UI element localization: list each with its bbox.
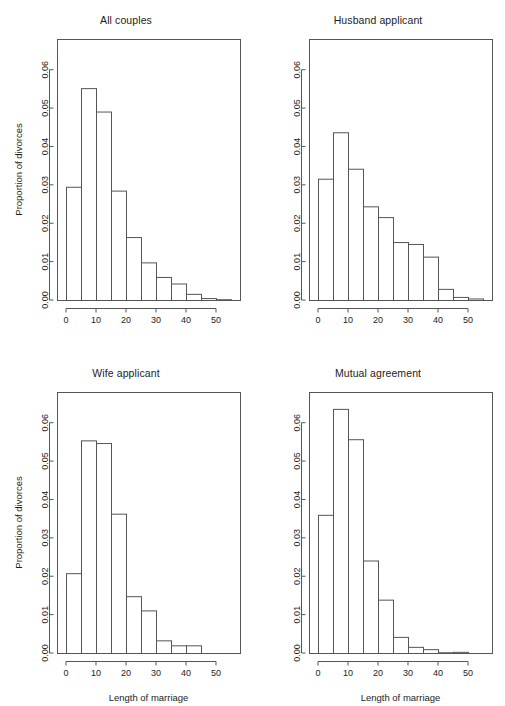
x-tick-label: 30 <box>403 315 413 325</box>
histogram-bar <box>334 133 349 301</box>
plot-area-mutual-agreement: 0.000.010.020.030.040.050.0601020304050L… <box>252 353 504 706</box>
x-tick-label: 50 <box>211 668 221 678</box>
x-axis-title: Length of marriage <box>109 692 189 703</box>
histogram-bar <box>424 257 439 300</box>
histogram-bar <box>67 187 82 300</box>
plot-frame <box>58 40 241 301</box>
x-axis: 01020304050 <box>315 309 473 326</box>
histogram-bar <box>187 294 202 300</box>
panel-husband-applicant: Husband applicant0.000.010.020.030.040.0… <box>252 0 504 353</box>
histogram-bar <box>439 289 454 300</box>
x-axis-title: Length of marriage <box>361 692 441 703</box>
histogram-bar <box>127 238 142 301</box>
histogram-bar <box>319 179 334 300</box>
y-tick-label: 0.05 <box>40 452 50 470</box>
y-axis: 0.000.010.020.030.040.050.06 <box>292 61 306 309</box>
x-tick-label: 20 <box>121 668 131 678</box>
y-axis-title: Proportion of divorces <box>13 123 24 216</box>
y-tick-label: 0.06 <box>292 61 302 79</box>
histogram-bars <box>319 409 469 653</box>
histogram-bar <box>439 653 454 654</box>
histogram-bar <box>379 600 394 653</box>
x-tick-label: 10 <box>343 315 353 325</box>
histogram-bar <box>394 637 409 653</box>
y-tick-label: 0.04 <box>40 491 50 509</box>
x-tick-label: 30 <box>151 668 161 678</box>
x-tick-label: 20 <box>121 315 131 325</box>
plot-frame <box>58 393 241 654</box>
histogram-bar <box>82 89 97 301</box>
x-tick-label: 10 <box>91 315 101 325</box>
x-tick-label: 50 <box>211 315 221 325</box>
histogram-bar <box>379 218 394 301</box>
x-tick-label: 30 <box>403 668 413 678</box>
x-tick-label: 10 <box>343 668 353 678</box>
y-tick-label: 0.01 <box>292 253 302 271</box>
x-axis: 01020304050 <box>63 309 221 326</box>
y-tick-label: 0.05 <box>292 99 302 117</box>
x-tick-label: 20 <box>373 315 383 325</box>
plot-area-husband-applicant: 0.000.010.020.030.040.050.0601020304050 <box>252 0 504 353</box>
y-axis: 0.000.010.020.030.040.050.06 <box>292 414 306 662</box>
x-tick-label: 0 <box>63 668 68 678</box>
y-tick-label: 0.05 <box>40 99 50 117</box>
plot-frame <box>310 40 493 301</box>
y-tick-label: 0.06 <box>292 414 302 432</box>
y-tick-label: 0.04 <box>292 138 302 156</box>
y-tick-label: 0.01 <box>40 253 50 271</box>
y-tick-label: 0.01 <box>292 606 302 624</box>
x-tick-label: 0 <box>63 315 68 325</box>
x-tick-label: 40 <box>433 315 443 325</box>
x-axis: 01020304050 <box>315 662 473 679</box>
plot-area-all-couples: 0.000.010.020.030.040.050.0601020304050P… <box>0 0 252 353</box>
x-tick-label: 40 <box>433 668 443 678</box>
x-tick-label: 10 <box>91 668 101 678</box>
histogram-bar <box>172 646 187 654</box>
x-tick-label: 40 <box>181 315 191 325</box>
x-tick-label: 0 <box>315 315 320 325</box>
histogram-bar <box>202 299 217 301</box>
y-tick-label: 0.06 <box>40 61 50 79</box>
histogram-bar <box>334 409 349 653</box>
histogram-bar <box>112 191 127 300</box>
y-tick-label: 0.02 <box>292 214 302 232</box>
plot-frame <box>310 393 493 654</box>
histogram-bar <box>394 243 409 301</box>
histogram-bar <box>349 440 364 654</box>
histogram-bar <box>157 641 172 654</box>
y-tick-label: 0.02 <box>40 214 50 232</box>
y-tick-label: 0.06 <box>40 414 50 432</box>
x-tick-label: 30 <box>151 315 161 325</box>
histogram-bar <box>454 297 469 300</box>
histogram-bar <box>142 611 157 654</box>
y-tick-label: 0.00 <box>40 644 50 662</box>
x-tick-label: 50 <box>463 668 473 678</box>
histogram-bars <box>67 441 202 654</box>
histogram-bar <box>469 299 484 301</box>
y-tick-label: 0.05 <box>292 452 302 470</box>
y-tick-label: 0.03 <box>40 529 50 547</box>
histogram-bar <box>319 515 334 653</box>
plot-area-wife-applicant: 0.000.010.020.030.040.050.0601020304050P… <box>0 353 252 706</box>
histogram-bar <box>97 112 112 300</box>
histogram-bar <box>172 284 187 301</box>
figure-canvas: All couples0.000.010.020.030.040.050.060… <box>0 0 505 706</box>
y-axis-title: Proportion of divorces <box>13 476 24 569</box>
panel-all-couples: All couples0.000.010.020.030.040.050.060… <box>0 0 252 353</box>
x-tick-label: 0 <box>315 668 320 678</box>
x-axis: 01020304050 <box>63 662 221 679</box>
y-tick-label: 0.00 <box>292 644 302 662</box>
histogram-bar <box>187 646 202 654</box>
x-tick-label: 40 <box>181 668 191 678</box>
histogram-bar <box>349 169 364 300</box>
histogram-bar <box>424 650 439 654</box>
y-tick-label: 0.03 <box>292 529 302 547</box>
histogram-bars <box>67 89 232 301</box>
panel-mutual-agreement: Mutual agreement0.000.010.020.030.040.05… <box>252 353 504 706</box>
y-axis: 0.000.010.020.030.040.050.06 <box>40 414 54 662</box>
y-tick-label: 0.04 <box>292 491 302 509</box>
x-tick-label: 50 <box>463 315 473 325</box>
y-axis: 0.000.010.020.030.040.050.06 <box>40 61 54 309</box>
histogram-bar <box>142 263 157 301</box>
panel-wife-applicant: Wife applicant0.000.010.020.030.040.050.… <box>0 353 252 706</box>
